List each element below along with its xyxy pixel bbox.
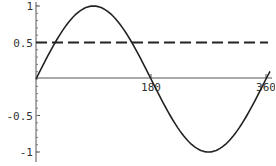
- y-tick-label: 0.5: [13, 37, 33, 50]
- axes: 10.5-0.5-1 180360: [7, 0, 276, 162]
- chart: 10.5-0.5-1 180360: [0, 0, 275, 166]
- y-ticks: 10.5-0.5-1: [7, 0, 41, 159]
- y-tick-label: -0.5: [7, 110, 34, 123]
- sine-curve-series: [36, 6, 270, 152]
- y-tick-label: -1: [20, 146, 33, 159]
- y-tick-label: 1: [26, 0, 33, 13]
- x-ticks: 180360: [141, 74, 275, 94]
